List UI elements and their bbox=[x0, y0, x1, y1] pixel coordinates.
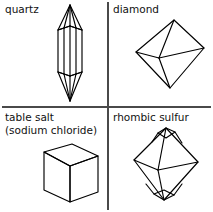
diamond-crystal-drawing bbox=[108, 0, 213, 106]
cube-top-face bbox=[44, 144, 98, 166]
quadrant-table-salt: table salt (sodium chloride) bbox=[0, 108, 106, 212]
sulfur-bottom-truncation-edge-right bbox=[174, 184, 182, 195]
rhombic-sulfur-crystal-drawing bbox=[108, 108, 213, 212]
diamond-edge-bottom-to-front bbox=[159, 58, 170, 88]
quartz-crystal-drawing bbox=[0, 0, 106, 106]
quadrant-diamond: diamond bbox=[108, 0, 213, 106]
quadrant-rhombic-sulfur: rhombic sulfur bbox=[108, 108, 213, 212]
crystal-shapes-figure: quartz bbox=[0, 0, 213, 212]
quadrant-quartz: quartz bbox=[0, 0, 106, 106]
cube-right-face bbox=[70, 156, 98, 202]
cube-left-face bbox=[44, 152, 70, 202]
table-salt-crystal-drawing bbox=[0, 108, 106, 212]
